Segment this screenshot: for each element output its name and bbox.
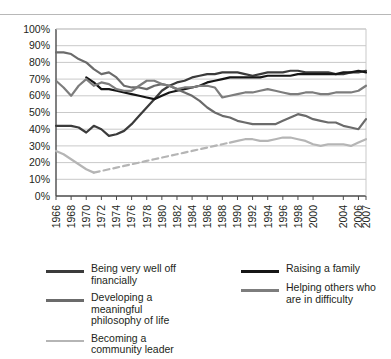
y-axis-tick-label: 70% <box>29 73 50 85</box>
y-axis-tick-label: 10% <box>29 173 50 185</box>
legend-line-swatch-icon <box>241 266 279 276</box>
legend-left-item[interactable]: Being very well off financially <box>46 263 196 286</box>
x-axis-tick-label: 1978 <box>141 205 153 229</box>
x-axis-labels-group: 1966196819701972197419761978198019821984… <box>50 205 372 229</box>
x-axis-tick-label: 1974 <box>110 205 122 229</box>
x-axis-tick-label: 1970 <box>80 205 92 229</box>
series-line <box>56 151 94 173</box>
x-axis-tick-label: 1982 <box>171 205 183 229</box>
series-line <box>94 143 230 173</box>
x-axis-tick-label: 1980 <box>156 205 168 229</box>
x-axis-tick-label: 2000 <box>307 205 319 229</box>
legend-left-item[interactable]: Developing a meaningful philosophy of li… <box>46 292 196 327</box>
legend-line-swatch-icon <box>46 266 84 276</box>
y-axis-tick-label: 20% <box>29 156 50 168</box>
legend-line-swatch-icon <box>46 336 84 346</box>
y-axis-tick-label: 90% <box>29 39 50 51</box>
x-axis-tick-label: 1988 <box>216 205 228 229</box>
y-axis-tick-label: 60% <box>29 89 50 101</box>
gridlines-group <box>56 29 366 196</box>
legend-right-item[interactable]: Raising a family <box>241 263 386 276</box>
x-axis-tick-label: 1972 <box>95 205 107 229</box>
legend-label: Being very well off financially <box>91 263 196 286</box>
x-axis-tick-label: 1990 <box>231 205 243 229</box>
x-axis-tick-label: 1998 <box>292 205 304 229</box>
x-axis-tick-label: 1994 <box>262 205 274 229</box>
x-axis-tick-label: 1984 <box>186 205 198 229</box>
y-axis-tick-label: 0% <box>35 190 50 202</box>
legend-label: Becoming a community leader <box>91 333 196 356</box>
y-axis-tick-label: 40% <box>29 123 50 135</box>
legend-column-right: Raising a familyHelping others who are i… <box>241 263 386 311</box>
x-axis-tick-label: 1976 <box>125 205 137 229</box>
legend-label: Raising a family <box>286 263 360 275</box>
legend-label: Helping others who are in difficulty <box>286 282 376 305</box>
x-axis-tick-label: 1992 <box>246 205 258 229</box>
y-axis-tick-label: 50% <box>29 106 50 118</box>
y-axis-tick-label: 80% <box>29 56 50 68</box>
y-axis-labels-group: 0%10%20%30%40%50%60%70%80%90%100% <box>23 23 50 202</box>
legend-line-swatch-icon <box>241 285 279 295</box>
legend-label: Developing a meaningful philosophy of li… <box>91 292 196 327</box>
legend-left-item[interactable]: Becoming a community leader <box>46 333 196 356</box>
legend-right-item[interactable]: Helping others who are in difficulty <box>241 282 386 305</box>
y-axis-tick-label: 100% <box>23 23 50 35</box>
series-line <box>56 52 366 129</box>
x-axis-tick-label: 1968 <box>65 205 77 229</box>
legend-line-swatch-icon <box>46 295 84 305</box>
legend-column-left: Being very well off financiallyDevelopin… <box>46 263 196 359</box>
x-axis-tick-label: 1966 <box>50 205 62 229</box>
x-axis-tick-label: 2004 <box>337 205 349 229</box>
x-axis-tick-label: 1986 <box>201 205 213 229</box>
x-axis-tick-label: 1996 <box>277 205 289 229</box>
x-axis-tick-label: 2007 <box>360 205 372 229</box>
series-line <box>230 138 366 146</box>
y-axis-tick-label: 30% <box>29 140 50 152</box>
